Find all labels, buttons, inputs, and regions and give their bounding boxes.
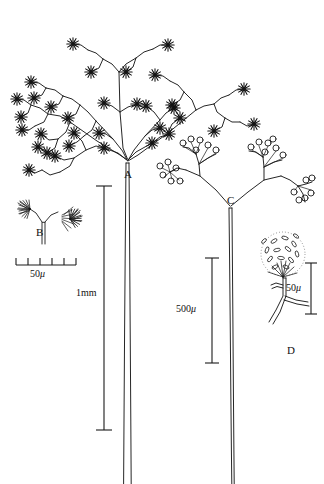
scale-label-a: 1mm [76,288,97,298]
scale-bar-d [305,263,317,314]
panel-c-left-limb [186,170,230,206]
panel-label-b: B [36,227,43,238]
scale-label-d-unit: μ [296,282,301,293]
scale-label-c-value: 500 [176,303,191,314]
panel-label-c: C [227,195,234,206]
illustration-plate: A B C D 50μ 1mm 500μ 50μ [0,0,324,484]
scale-bar-a [96,186,112,430]
panel-c-sporangia [157,136,315,203]
panel-a-center-arm [73,44,174,139]
scale-label-d: 50μ [286,283,301,293]
scale-bar-c [205,258,219,363]
scale-label-c-unit: μ [191,303,196,314]
scale-label-b-unit: μ [40,268,45,279]
panel-b-right-tuft [68,207,85,228]
panel-c-stalk [229,208,234,484]
scale-bar-b [16,258,76,265]
scale-label-c: 500μ [176,304,196,314]
scale-label-b-value: 50 [30,268,40,279]
panel-b-detail [18,200,85,244]
scale-label-a-value: 1mm [76,287,97,298]
panel-b-left-tuft [18,200,31,219]
panel-d-spores [261,233,300,270]
panel-a-sporangiophore [11,38,260,484]
scale-label-d-value: 50 [286,282,296,293]
panel-d-detail [261,232,309,324]
illustration-canvas [0,0,324,484]
scale-label-b: 50μ [30,269,45,279]
panel-a-stalk [124,163,132,484]
panel-label-d: D [287,345,295,356]
panel-c-right-limb [231,176,281,206]
panel-label-a: A [124,169,132,180]
panel-b-right-tuft-extra [62,207,75,231]
panel-a-right-arm [145,75,254,143]
